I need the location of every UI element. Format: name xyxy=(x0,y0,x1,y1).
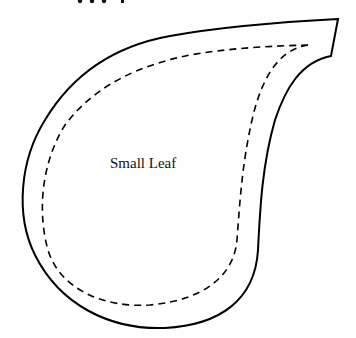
leaf-template-drawing: Small Leaf xyxy=(0,0,356,338)
leaf-outer-cut-line xyxy=(23,19,338,328)
leaf-inner-stitch-line xyxy=(42,45,308,305)
pattern-label: Small Leaf xyxy=(110,155,176,171)
cropped-heading-fragment xyxy=(78,0,124,3)
